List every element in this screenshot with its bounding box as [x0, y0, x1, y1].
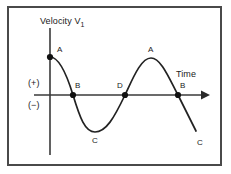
y-axis-title-text: Velocity V: [40, 16, 81, 26]
data-point-d1-marker: [122, 92, 128, 98]
positive-sign-label: (+): [28, 79, 40, 88]
point-label-b1: B: [75, 82, 80, 90]
point-label-a2: A: [148, 46, 153, 54]
point-label-c1: C: [92, 137, 98, 145]
y-axis-title-subscript: 1: [81, 21, 85, 28]
negative-sign-label: (−): [28, 101, 40, 110]
velocity-time-figure: Velocity V1 Time (+) (−) A B C D A B C: [0, 0, 231, 174]
point-label-d1: D: [117, 82, 123, 90]
data-point-b2-marker: [175, 92, 181, 98]
data-point-b1-marker: [70, 92, 76, 98]
point-label-c2: C: [197, 139, 203, 147]
point-label-a1: A: [57, 46, 62, 54]
data-point-a1-marker: [47, 54, 53, 60]
x-axis-arrowhead: [201, 91, 210, 100]
y-axis-title: Velocity V1: [40, 17, 85, 28]
x-axis-title: Time: [176, 70, 196, 79]
point-label-b2: B: [180, 82, 185, 90]
